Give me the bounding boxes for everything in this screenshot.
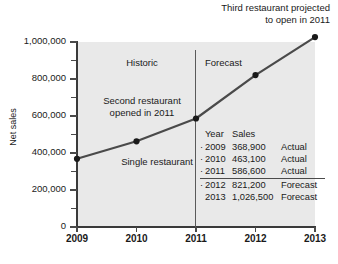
row-kind: Forecast [281, 191, 325, 203]
y-tick: 1,000,000 [70, 41, 77, 42]
x-tick-label: 2012 [244, 233, 266, 244]
table-row: ·2012821,200Forecast [200, 179, 325, 192]
annotation-forecast: Forecast [205, 57, 271, 69]
row-year: 2010 [205, 153, 232, 165]
table-header-row: Year Sales [200, 128, 325, 141]
y-tick-label: 800,000 [32, 72, 66, 83]
table-row: ·2009368,900Actual [200, 141, 325, 153]
data-point-2013 [312, 34, 318, 40]
annotation-third-restaurant: Third restaurant projected to open in 20… [180, 2, 330, 25]
y-tick-minor [71, 97, 76, 98]
y-tick-minor [71, 171, 76, 172]
x-tick-mark [314, 227, 315, 232]
row-sales: 586,600 [232, 165, 281, 179]
y-tick: 200,000 [70, 189, 77, 190]
table-row: ·2010463,100Actual [200, 153, 325, 165]
x-tick-mark [195, 227, 196, 232]
table-row: ·2011586,600Actual [200, 165, 325, 179]
row-kind: Actual [281, 165, 325, 179]
y-tick: 800,000 [70, 78, 77, 79]
row-year: 2009 [205, 141, 232, 153]
sales-data-table: Year Sales ·2009368,900Actual·2010463,10… [200, 128, 325, 204]
y-tick-minor [71, 134, 76, 135]
y-tick: 400,000 [70, 152, 77, 153]
y-tick-minor [71, 60, 76, 61]
x-tick-mark [255, 227, 256, 232]
annotation-historic: Historic [105, 57, 179, 69]
y-tick-label: 200,000 [32, 183, 66, 194]
y-tick: 600,000 [70, 115, 77, 116]
annotation-single-restaurant: Single restaurant [101, 156, 193, 168]
table-row: 20131,026,500Forecast [200, 191, 325, 203]
row-kind: Actual [281, 153, 325, 165]
column-header-sales: Sales [232, 128, 281, 141]
x-tick-label: 2013 [304, 233, 326, 244]
row-year: 2012 [205, 179, 232, 192]
x-tick-label: 2011 [185, 233, 207, 244]
y-tick-label: 0 [61, 220, 66, 231]
column-header-year: Year [205, 128, 232, 141]
row-year: 2011 [205, 165, 232, 179]
historic-forecast-divider [195, 50, 196, 227]
x-tick-mark [76, 227, 77, 232]
y-tick-label: 400,000 [32, 146, 66, 157]
y-tick-mark [70, 115, 77, 116]
y-axis-line [76, 41, 78, 228]
row-kind: Forecast [281, 179, 325, 192]
y-tick-minor [71, 208, 76, 209]
y-tick-mark [70, 78, 77, 79]
annotation-second-restaurant: Second restaurant opened in 2011 [90, 95, 194, 118]
y-tick-mark [70, 189, 77, 190]
y-tick-mark [70, 152, 77, 153]
y-tick-label: 1,000,000 [24, 35, 66, 46]
x-tick-mark [136, 227, 137, 232]
net-sales-line-chart: Third restaurant projected to open in 20… [0, 0, 338, 264]
y-tick-label: 600,000 [32, 109, 66, 120]
y-tick-mark [70, 41, 77, 42]
row-year: 2013 [205, 191, 232, 203]
row-sales: 463,100 [232, 153, 281, 165]
row-kind: Actual [281, 141, 325, 153]
x-tick-label: 2009 [66, 233, 88, 244]
x-tick-label: 2010 [125, 233, 147, 244]
row-sales: 1,026,500 [232, 191, 281, 203]
row-sales: 821,200 [232, 179, 281, 192]
row-sales: 368,900 [232, 141, 281, 153]
y-axis-label: Net sales [8, 97, 18, 157]
